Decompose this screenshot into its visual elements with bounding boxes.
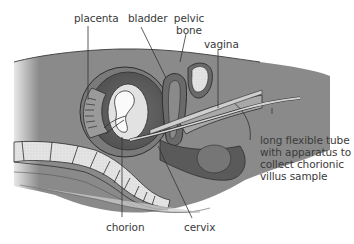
anatomy-illustration (0, 0, 354, 244)
label-tube-line4: villus sample (260, 170, 351, 182)
label-tube: long flexible tube with apparatus to col… (260, 134, 351, 182)
label-pelvic-bone: pelvic bone (172, 12, 206, 36)
label-placenta: placenta (74, 12, 119, 24)
label-cervix: cervix (184, 221, 215, 233)
label-vagina: vagina (204, 38, 239, 50)
label-pelvic-bone-line1: pelvic (172, 12, 206, 24)
label-tube-line1: long flexible tube (260, 134, 351, 146)
label-pelvic-bone-line2: bone (172, 24, 206, 36)
uterus (80, 67, 170, 157)
label-chorion: chorion (106, 221, 144, 233)
label-tube-line3: collect chorionic (260, 158, 351, 170)
label-bladder: bladder (128, 12, 167, 24)
cvs-diagram: placenta bladder pelvic bone vagina long… (0, 0, 354, 244)
label-tube-line2: with apparatus to (260, 146, 351, 158)
